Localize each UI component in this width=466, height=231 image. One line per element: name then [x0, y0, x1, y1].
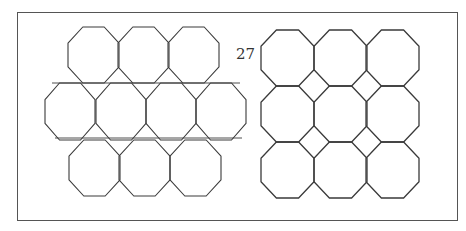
octagon-tile	[261, 142, 314, 198]
octagon-tile	[366, 30, 419, 86]
octagon-tile	[45, 83, 95, 140]
octagon-tile	[146, 83, 196, 140]
octagon-tile	[366, 86, 419, 142]
octagon-square-tiling	[261, 30, 419, 198]
octagon-tile	[314, 142, 367, 198]
diagram-stage: 27	[0, 0, 466, 231]
octagon-tile	[119, 140, 170, 196]
octagon-tile	[196, 83, 246, 140]
tiling-drawing	[0, 0, 466, 231]
octagon-tile	[314, 30, 367, 86]
octagon-tile	[168, 27, 219, 83]
octagon-tile	[314, 86, 367, 142]
octagon-tile	[68, 27, 119, 83]
octagon-tile	[261, 86, 314, 142]
octagon-tile	[96, 83, 146, 140]
octagon-tile	[261, 30, 314, 86]
octagon-tile	[69, 140, 120, 196]
octagon-tile	[170, 140, 221, 196]
octagon-tile	[366, 142, 419, 198]
octagon-triangle-tiling	[45, 27, 246, 196]
octagon-tile	[118, 27, 169, 83]
